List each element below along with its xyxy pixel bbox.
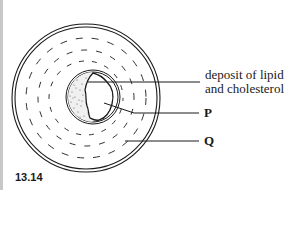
label-q: Q bbox=[204, 134, 214, 148]
label-p: P bbox=[204, 106, 212, 120]
lumen-outline bbox=[85, 73, 113, 120]
deposit-label-line-2: and cholesterol bbox=[205, 82, 284, 96]
deposit-label-line-1: deposit of lipid bbox=[205, 68, 284, 82]
figure-number: 13.14 bbox=[15, 171, 43, 183]
deposit-label: deposit of lipid and cholesterol bbox=[205, 68, 284, 96]
